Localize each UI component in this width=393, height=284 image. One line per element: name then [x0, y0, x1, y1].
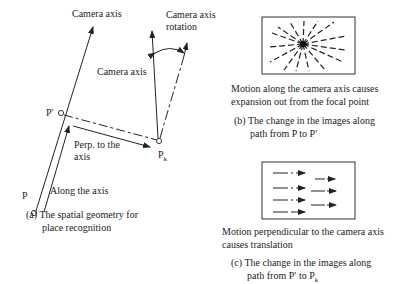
rotation-label-line2: rotation — [166, 21, 197, 33]
panel-c-image — [262, 162, 355, 219]
top-camera-axis-label: Camera axis — [72, 8, 122, 20]
rotation-arc — [155, 49, 184, 54]
caption-b-line1: (b) The change in the images along — [234, 115, 375, 127]
caption-c-line2: path from P′ to Pk — [247, 270, 318, 284]
panel-b-desc-line2: expansion out from the focal point — [231, 96, 369, 108]
panel-b-image — [262, 17, 355, 74]
pk-camera-axis-arrow — [152, 31, 158, 138]
caption-b-line2: path from P to P′ — [250, 128, 317, 140]
rotation-label-line1: Camera axis — [166, 9, 216, 21]
point-p-prime-label: P′ — [46, 107, 54, 119]
caption-a-line2: place recognition — [42, 222, 111, 234]
rotated-axis-dashed — [160, 56, 184, 138]
caption-a-line1: (a) The spatial geometry for — [26, 209, 138, 221]
point-pk-marker — [156, 138, 161, 143]
point-pk-label: Pk — [158, 149, 167, 165]
panel-b-desc-line1: Motion along the camera axis causes — [231, 83, 378, 95]
panel-c-desc-line2: causes translation — [222, 239, 293, 251]
panel-c-desc-line1: Motion perpendicular to the camera axis — [222, 226, 384, 238]
diagram-graphics — [0, 0, 393, 284]
perp-label-line2: axis — [74, 151, 90, 163]
point-p-label: P — [22, 190, 28, 202]
along-axis-arrow — [44, 126, 69, 212]
along-axis-label: Along the axis — [50, 185, 108, 197]
caption-c-line1: (c) The change in the images along — [231, 257, 371, 269]
mid-camera-axis-label: Camera axis — [97, 66, 147, 78]
perp-label-line1: Perp. to the — [74, 139, 120, 151]
point-p-prime-marker — [58, 110, 63, 115]
